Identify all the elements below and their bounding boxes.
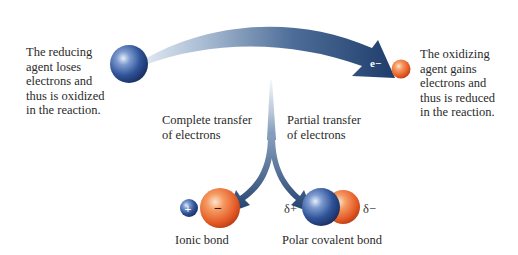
electron-transfer-arrow: e− [140,27,395,78]
electron-label: e− [370,57,381,69]
anion-sign: − [214,201,222,216]
cation-sign: + [185,202,192,216]
oxidizing-agent-sphere [392,60,411,79]
ionic-bond-illustration: + − [180,188,240,228]
ionic-bond-label: Ionic bond [175,233,229,248]
delta-plus-label: δ+ [284,202,297,216]
oxidizing-agent-note: The oxidizing agent gains electrons and … [420,47,495,120]
partial-transfer-label: Partial transfer of electrons [287,113,361,142]
reducing-agent-sphere [110,45,148,83]
polar-covalent-bond-label: Polar covalent bond [282,233,382,248]
partial-positive-sphere [302,188,340,226]
delta-minus-label: δ− [363,202,376,216]
branch-stem [267,80,276,140]
reducing-agent-note: The reducing agent loses electrons and t… [26,45,104,118]
complete-transfer-label: Complete transfer of electrons [162,113,252,142]
redox-diagram: e− + − δ+ δ− [0,0,518,255]
